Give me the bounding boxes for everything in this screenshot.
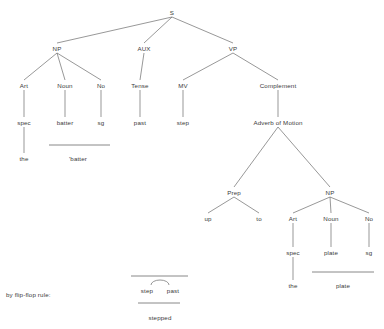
tree-edges [24,17,369,280]
tree-node-advmotion: Adverb of Motion [253,119,302,126]
tree-node-the1: the [19,155,28,162]
flip-flop-arc-icon [151,280,169,285]
tree-node-plateform: plate [336,282,350,289]
edge-Prep-to [234,197,259,213]
tree-node-plate1: plate [324,249,338,256]
tree-node-no2: No [365,215,373,222]
edge-NP2-No2 [330,197,369,213]
tree-node-up: up [204,215,211,222]
edge-advmotion-Prep [234,127,278,187]
tree-node-noun2: Noun [323,215,338,222]
edge-S-NP1 [57,17,172,43]
tree-node-prep: Prep [227,189,241,196]
tree-node-no1: No [97,82,105,89]
flip-flop-marks [131,276,188,303]
edge-S-AUX [144,17,172,43]
tree-node-art2: Art [289,215,297,222]
edge-NP2-Art2 [293,197,330,213]
tree-node-s: S [170,9,174,16]
tree-node-art1: Art [20,82,28,89]
tree-node-noun1: Noun [57,82,72,89]
tree-node-mv: MV [178,82,188,89]
flip-flop-result: stepped [148,314,171,321]
flip-flop-left-token: step [141,287,153,294]
edge-NP2-Noun2 [330,197,331,213]
tree-node-the2: the [288,282,297,289]
syntax-tree-diagram: SNPAUXVPArtNounNoTenseMVComplementspecba… [0,0,384,329]
edge-Prep-up [208,197,234,213]
edge-S-VP [172,17,233,43]
tree-node-step: step [177,119,189,126]
tree-node-complement: Complement [260,82,297,89]
tree-node-sg1: sg [98,119,105,126]
edge-VP-Complement [233,53,278,80]
tree-node-aux: AUX [137,45,150,52]
edge-advmotion-NP2 [278,127,330,187]
flip-flop-right-token: past [167,287,179,294]
edge-NP1-Art1 [24,53,57,80]
tree-node-np2: NP [326,189,335,196]
tree-node-past: past [134,119,146,126]
flip-flop-caption: by flip-flop rule: [6,291,51,298]
edge-AUX-Tense [140,53,144,80]
tree-node-tense: Tense [131,82,148,89]
tree-node-sg2: sg [366,249,373,256]
tree-node-to: to [256,215,261,222]
tree-node-batterform: 'batter [69,155,87,162]
tree-node-np1: NP [53,45,62,52]
tree-node-spec2: spec [286,249,300,256]
tree-node-vp: VP [229,45,238,52]
tree-node-spec1: spec [17,119,31,126]
tree-node-batter1: batter [57,119,74,126]
edge-VP-MV [183,53,233,80]
